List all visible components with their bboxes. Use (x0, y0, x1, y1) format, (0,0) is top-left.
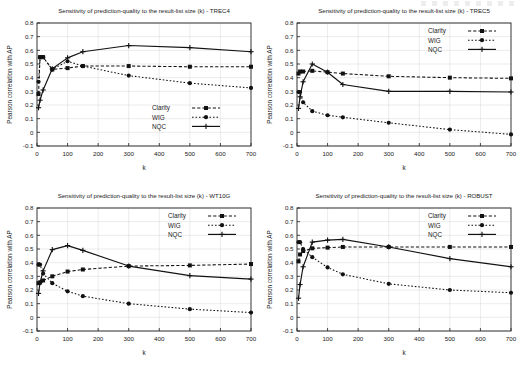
legend-label-nqc: NQC (428, 231, 442, 239)
x-tick-label: 200 (353, 150, 364, 157)
y-tick-label: 0.6 (285, 232, 294, 239)
y-tick-label: 0.5 (25, 245, 34, 252)
x-tick-label: 100 (62, 335, 73, 342)
legend-label-clarity: Clarity (428, 212, 447, 220)
chart-title: Sensitivity of prediction-quality to the… (58, 7, 230, 14)
y-axis-label: Pearson correlation with AP (266, 45, 273, 124)
x-tick-label: 100 (322, 335, 333, 342)
x-tick-label: 600 (215, 335, 226, 342)
y-tick-label: 0.1 (285, 115, 294, 122)
y-tick-label: 0.7 (285, 33, 294, 40)
y-tick-label: 0.7 (285, 218, 294, 225)
legend-swatch-wig (468, 38, 496, 42)
y-tick-label: 0 (290, 129, 294, 136)
y-tick-label: -0.1 (283, 327, 294, 334)
y-tick-label: 0.2 (25, 286, 34, 293)
legend-swatch-clarity (468, 29, 496, 33)
x-tick-label: 500 (445, 335, 456, 342)
y-tick-label: 0.3 (25, 273, 34, 280)
y-tick-label: -0.1 (23, 327, 34, 334)
y-tick-label: 0.1 (25, 300, 34, 307)
y-tick-label: -0.1 (23, 142, 34, 149)
x-tick-label: 0 (295, 150, 299, 157)
y-tick-label: 0.4 (285, 259, 294, 266)
chart-legend: ClarityWIGNQC (168, 212, 236, 238)
series-nqc (36, 43, 254, 110)
y-tick-label: 0.7 (25, 218, 34, 225)
plot-frame (297, 208, 511, 331)
y-tick-label: 0.8 (285, 204, 294, 211)
y-tick-label: 0.4 (25, 74, 34, 81)
plot-frame (297, 23, 511, 146)
legend-swatch-nqc (208, 232, 236, 237)
legend-label-nqc: NQC (152, 123, 166, 131)
y-tick-label: 0.4 (285, 74, 294, 81)
y-tick-label: 0.1 (285, 300, 294, 307)
chart-legend: ClarityWIGNQC (428, 27, 496, 53)
y-tick-label: 0.8 (25, 19, 34, 26)
legend-label-clarity: Clarity (152, 104, 171, 112)
y-tick-label: 0.1 (25, 115, 34, 122)
legend-swatch-nqc (468, 232, 496, 237)
legend-swatch-nqc (192, 124, 220, 129)
x-tick-label: 400 (414, 335, 425, 342)
x-tick-label: 0 (295, 335, 299, 342)
y-tick-label: 0.5 (25, 60, 34, 67)
x-tick-label: 700 (506, 335, 517, 342)
y-tick-label: 0.8 (25, 204, 34, 211)
x-tick-label: 600 (215, 150, 226, 157)
legend-swatch-wig (208, 223, 236, 227)
y-tick-label: 0.5 (285, 60, 294, 67)
y-tick-label: 0.5 (285, 245, 294, 252)
y-axis-label: Pearson correlation with AP (6, 230, 13, 309)
x-tick-label: 600 (475, 335, 486, 342)
y-tick-label: 0.2 (25, 101, 34, 108)
y-tick-label: 0.6 (25, 232, 34, 239)
x-tick-label: 600 (475, 150, 486, 157)
y-tick-label: 0.7 (25, 33, 34, 40)
x-tick-label: 200 (93, 150, 104, 157)
x-tick-label: 200 (353, 335, 364, 342)
chart-panel-trec5: Sensitivity of prediction-quality to the… (260, 0, 521, 185)
y-tick-label: 0 (290, 314, 294, 321)
chart-title: Sensitivity of prediction-quality to the… (58, 192, 231, 199)
x-tick-label: 300 (124, 335, 135, 342)
legend-label-wig: WIG (428, 222, 441, 229)
plot-frame (37, 23, 251, 146)
x-axis-label: k (142, 349, 146, 356)
x-tick-label: 700 (506, 150, 517, 157)
figure-grid: Sensitivity of prediction-quality to the… (0, 0, 521, 370)
y-tick-label: 0.8 (285, 19, 294, 26)
x-tick-label: 200 (93, 335, 104, 342)
chart-panel-wt10g: Sensitivity of prediction-quality to the… (0, 185, 260, 370)
y-tick-label: 0.3 (285, 273, 294, 280)
plot-frame (37, 208, 251, 331)
y-tick-label: 0.6 (25, 47, 34, 54)
y-tick-label: 0 (30, 129, 34, 136)
x-tick-label: 400 (154, 335, 165, 342)
x-tick-label: 700 (246, 150, 257, 157)
legend-label-nqc: NQC (168, 231, 182, 239)
x-tick-label: 100 (322, 150, 333, 157)
x-tick-label: 400 (414, 150, 425, 157)
legend-swatch-clarity (192, 106, 220, 110)
legend-label-wig: WIG (168, 222, 181, 229)
series-nqc (296, 61, 514, 111)
chart-title: Sensitivity of prediction-quality to the… (318, 7, 490, 14)
x-tick-label: 500 (185, 335, 196, 342)
x-tick-label: 300 (384, 150, 395, 157)
legend-swatch-wig (468, 223, 496, 227)
x-axis-label: k (402, 164, 406, 171)
legend-label-wig: WIG (428, 37, 441, 44)
chart-legend: ClarityWIGNQC (428, 212, 496, 238)
x-tick-label: 500 (445, 150, 456, 157)
chart-panel-trec4: Sensitivity of prediction-quality to the… (0, 0, 260, 185)
x-tick-label: 0 (35, 150, 39, 157)
legend-label-nqc: NQC (428, 46, 442, 54)
legend-swatch-clarity (208, 214, 236, 218)
legend-label-clarity: Clarity (428, 27, 447, 35)
chart-title: Sensitivity of prediction-quality to the… (315, 192, 492, 199)
x-tick-label: 300 (124, 150, 135, 157)
chart-panel-robust: Sensitivity of prediction-quality to the… (260, 185, 521, 370)
legend-swatch-clarity (468, 214, 496, 218)
